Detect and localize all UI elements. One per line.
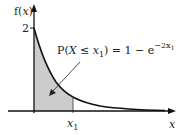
probability-annotation: P(X ≤ x1) = 1 − e−2x1: [57, 41, 174, 59]
y-axis-label: f(x): [14, 5, 33, 18]
shaded-probability-area: [34, 28, 73, 111]
exponential-density-chart: 2 f(x) x x1 P(X ≤ x1) = 1 − e−2x1: [0, 0, 185, 135]
x-axis-arrow-icon: [168, 108, 176, 114]
annotation-pointer: [52, 62, 80, 92]
x1-tick-label: x1: [67, 117, 78, 132]
y-tick-label: 2: [22, 22, 29, 35]
x-axis-label: x: [169, 118, 176, 131]
